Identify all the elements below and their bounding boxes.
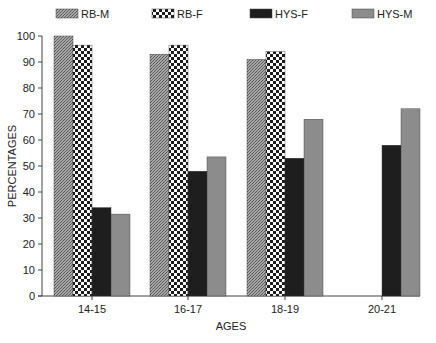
bar-group-16-17 bbox=[150, 45, 226, 296]
bar-chart: RB-MRB-FHYS-FHYS-M 010203040506070809010… bbox=[0, 0, 436, 343]
legend-item-rb-m: RB-M bbox=[56, 8, 109, 20]
legend-swatch bbox=[56, 9, 78, 18]
y-tick-label: 70 bbox=[23, 108, 35, 120]
legend-item-hys-m: HYS-M bbox=[352, 8, 412, 20]
legend-label: HYS-M bbox=[377, 8, 412, 20]
legend-label: HYS-F bbox=[275, 8, 308, 20]
legend-item-hys-f: HYS-F bbox=[250, 8, 308, 20]
x-tick-label: 16-17 bbox=[174, 303, 202, 315]
bars: 14-1516-1718-1920-21 bbox=[54, 36, 420, 315]
y-tick-label: 10 bbox=[23, 264, 35, 276]
y-tick-label: 20 bbox=[23, 238, 35, 250]
y-tick-label: 60 bbox=[23, 134, 35, 146]
y-tick-label: 0 bbox=[29, 290, 35, 302]
y-tick-label: 90 bbox=[23, 56, 35, 68]
bar-group-20-21 bbox=[382, 109, 420, 296]
legend-swatch bbox=[352, 9, 374, 18]
bar-rb-f bbox=[169, 45, 188, 296]
bar-hys-f bbox=[382, 145, 401, 296]
legend-swatch bbox=[152, 9, 174, 18]
bar-rb-f bbox=[266, 52, 285, 296]
x-tick-label: 18-19 bbox=[271, 303, 299, 315]
y-tick-label: 50 bbox=[23, 160, 35, 172]
bar-hys-m bbox=[207, 157, 226, 296]
y-tick-label: 80 bbox=[23, 82, 35, 94]
bar-rb-m bbox=[247, 59, 266, 296]
bar-rb-m bbox=[150, 54, 169, 296]
bar-rb-m bbox=[54, 36, 73, 296]
bar-hys-m bbox=[401, 109, 420, 296]
legend-label: RB-F bbox=[177, 8, 203, 20]
y-axis-title: PERCENTAGES bbox=[6, 125, 18, 207]
legend: RB-MRB-FHYS-FHYS-M bbox=[56, 8, 412, 20]
x-tick-label: 14-15 bbox=[78, 303, 106, 315]
bar-hys-f bbox=[188, 171, 207, 296]
bar-hys-f bbox=[285, 158, 304, 296]
y-tick-label: 40 bbox=[23, 186, 35, 198]
bar-hys-m bbox=[111, 214, 130, 296]
bar-hys-f bbox=[92, 208, 111, 296]
x-tick-label: 20-21 bbox=[368, 303, 396, 315]
y-tick-label: 30 bbox=[23, 212, 35, 224]
bar-rb-f bbox=[73, 45, 92, 296]
legend-item-rb-f: RB-F bbox=[152, 8, 203, 20]
x-axis-title: AGES bbox=[216, 320, 247, 332]
bar-group-18-19 bbox=[247, 52, 323, 296]
y-tick-label: 100 bbox=[17, 30, 35, 42]
legend-swatch bbox=[250, 9, 272, 18]
bar-hys-m bbox=[304, 119, 323, 296]
legend-label: RB-M bbox=[81, 8, 109, 20]
bar-group-14-15 bbox=[54, 36, 130, 296]
